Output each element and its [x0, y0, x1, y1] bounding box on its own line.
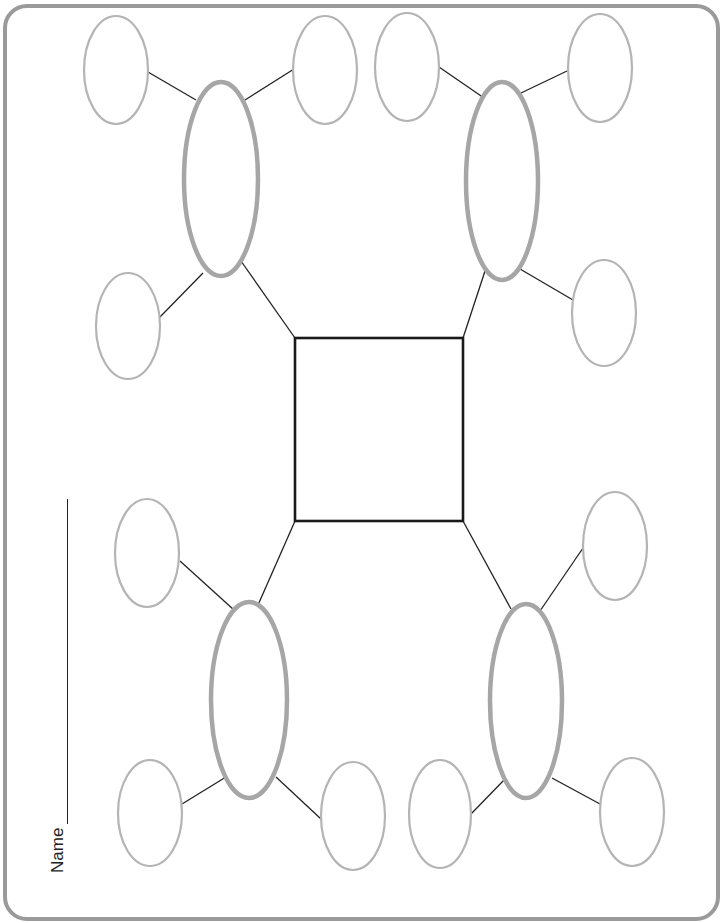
name-label: Name	[48, 828, 68, 873]
detail-ellipse[interactable]	[118, 760, 182, 866]
detail-ellipse[interactable]	[583, 492, 647, 600]
name-field[interactable]: Name	[48, 499, 68, 873]
detail-ellipse[interactable]	[409, 760, 471, 868]
detail-ellipse[interactable]	[600, 758, 664, 866]
name-input-line[interactable]	[53, 499, 68, 824]
main-idea-ellipse-top-right[interactable]	[466, 82, 538, 280]
graphic-organizer	[0, 0, 723, 923]
main-idea-ellipse-top-left[interactable]	[184, 82, 258, 276]
detail-ellipse[interactable]	[96, 273, 160, 379]
main-idea-ellipse-bottom-right[interactable]	[490, 604, 562, 798]
center-topic-box[interactable]	[295, 338, 463, 521]
detail-ellipse[interactable]	[321, 762, 385, 870]
detail-ellipse[interactable]	[375, 13, 439, 121]
main-idea-ellipse-bottom-left[interactable]	[211, 602, 287, 798]
detail-ellipse[interactable]	[568, 14, 632, 122]
detail-ellipse[interactable]	[293, 16, 357, 124]
detail-ellipse[interactable]	[572, 260, 636, 366]
detail-ellipse[interactable]	[84, 16, 148, 124]
detail-ellipse[interactable]	[115, 499, 179, 607]
